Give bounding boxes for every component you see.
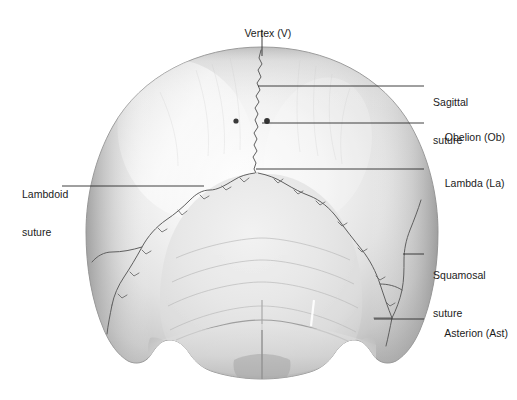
- obelion-dot-left: [233, 118, 238, 123]
- label-lambdoid-suture-line2: suture: [22, 226, 68, 239]
- label-asterion: Asterion (Ast): [433, 314, 508, 352]
- skull-body: [82, 39, 442, 385]
- label-squamosal-suture-line1: Squamosal: [433, 269, 486, 282]
- left-mastoid-process: [148, 338, 179, 381]
- label-lambdoid-suture: Lambdoid suture: [22, 163, 68, 263]
- label-obelion-text: Obelion (Ob): [445, 131, 505, 143]
- label-obelion: Obelion (Ob): [433, 118, 505, 156]
- label-lambda-text: Lambda (La): [445, 177, 505, 189]
- label-lambdoid-suture-line1: Lambdoid: [22, 188, 68, 201]
- label-lambda: Lambda (La): [433, 164, 505, 202]
- label-sagittal-suture-line1: Sagittal: [433, 96, 468, 109]
- label-vertex: Vertex (V): [212, 14, 312, 52]
- label-asterion-text: Asterion (Ast): [444, 327, 508, 339]
- figure-canvas: Vertex (V) Sagittal suture Obelion (Ob) …: [0, 0, 517, 400]
- label-vertex-text: Vertex (V): [244, 27, 291, 39]
- right-mastoid-process: [345, 338, 376, 381]
